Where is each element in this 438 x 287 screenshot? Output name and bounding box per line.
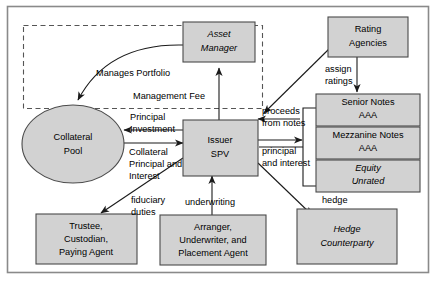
node-trustee-custodian-paying-agent[interactable]: Trustee, Custodian, Paying Agent bbox=[36, 214, 137, 264]
node-issuer-spv[interactable]: Issuer SPV bbox=[183, 120, 258, 176]
hedge-counterparty-label-line1: Hedge bbox=[333, 224, 360, 234]
equity-label-line2: Unrated bbox=[352, 176, 386, 186]
edge-label-principal-interest-line1: principal bbox=[262, 146, 296, 156]
node-mezzanine-notes[interactable]: Mezzanine Notes AAA bbox=[316, 127, 420, 159]
node-arranger-underwriter-placement-agent[interactable]: Arranger, Underwriter, and Placement Age… bbox=[160, 215, 266, 265]
mezzanine-notes-label-line1: Mezzanine Notes bbox=[333, 130, 404, 140]
trustee-label-line1: Trustee, bbox=[69, 221, 102, 231]
diagram-canvas: Asset Manager Rating Agencies Collateral… bbox=[0, 0, 438, 287]
arranger-label-line1: Arranger, bbox=[194, 222, 232, 232]
arranger-label-line3: Placement Agent bbox=[178, 248, 248, 258]
node-asset-manager[interactable]: Asset Manager bbox=[183, 22, 255, 62]
edge-label-principal-investment-line2: Investment bbox=[130, 124, 175, 134]
hedge-counterparty-label-line2: Counterparty bbox=[320, 238, 375, 248]
edge-label-management-fee: Management Fee bbox=[133, 91, 205, 101]
edge-label-fiduciary-line2: duties bbox=[131, 207, 156, 217]
mezzanine-notes-label-line2: AAA bbox=[359, 143, 378, 153]
edge-label-proceeds-line1: proceeds bbox=[262, 106, 300, 116]
edge-label-collateral-pi-line2: Principal and bbox=[129, 159, 182, 169]
securitization-structure-diagram: Asset Manager Rating Agencies Collateral… bbox=[0, 0, 438, 287]
edge-label-collateral-pi-line1: Collateral bbox=[129, 147, 168, 157]
senior-notes-label-line2: AAA bbox=[359, 110, 378, 120]
senior-notes-label-line1: Senior Notes bbox=[341, 97, 395, 107]
arranger-label-line2: Underwriter, and bbox=[179, 235, 246, 245]
edge-label-proceeds-line2: from notes bbox=[262, 118, 306, 128]
collateral-pool-label-line2: Pool bbox=[64, 146, 82, 156]
edge-label-principal-interest-line2: and interest bbox=[262, 158, 310, 168]
edge-hedge bbox=[258, 163, 312, 215]
trustee-label-line2: Custodian, bbox=[64, 234, 108, 244]
trustee-label-line3: Paying Agent bbox=[59, 247, 114, 257]
edge-label-assign-ratings-line2: ratings bbox=[325, 76, 353, 86]
rating-agencies-label-line2: Agencies bbox=[349, 38, 387, 48]
rating-agencies-label-line1: Rating bbox=[355, 24, 382, 34]
asset-manager-label-line1: Asset bbox=[207, 29, 231, 39]
edge-label-underwriting: underwriting bbox=[185, 197, 235, 207]
issuer-spv-label-line1: Issuer bbox=[207, 135, 232, 145]
edge-label-fiduciary-line1: fiduciary bbox=[131, 195, 166, 205]
edge-label-manages-portfolio: Manages Portfolio bbox=[96, 68, 170, 78]
edge-label-collateral-pi-line3: Interest bbox=[129, 171, 160, 181]
issuer-spv-label-line2: SPV bbox=[211, 149, 230, 159]
edge-label-hedge: hedge bbox=[322, 195, 348, 205]
node-senior-notes[interactable]: Senior Notes AAA bbox=[316, 94, 420, 126]
equity-label-line1: Equity bbox=[355, 163, 382, 173]
edge-label-principal-investment-line1: Principal bbox=[130, 112, 165, 122]
node-hedge-counterparty[interactable]: Hedge Counterparty bbox=[297, 209, 397, 264]
node-collateral-pool[interactable]: Collateral Pool bbox=[22, 105, 124, 183]
edge-label-assign-ratings-line1: assign bbox=[325, 64, 352, 74]
asset-manager-label-line2: Manager bbox=[201, 43, 238, 53]
node-equity[interactable]: Equity Unrated bbox=[316, 160, 420, 192]
node-rating-agencies[interactable]: Rating Agencies bbox=[328, 17, 408, 57]
collateral-pool-label-line1: Collateral bbox=[54, 132, 93, 142]
